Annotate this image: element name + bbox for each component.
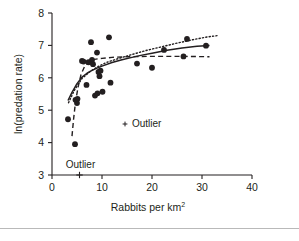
scatter-plot: 345678010203040OutlierOutlierRabbits per… (0, 0, 299, 241)
x-axis-title-text: Rabbits per km (111, 201, 182, 213)
x-tick-label: 30 (196, 181, 208, 193)
data-point (95, 90, 101, 96)
y-axis-title: ln(predation rate) (12, 54, 24, 134)
x-axis-title-superscript: 2 (181, 201, 185, 208)
x-tick-label: 40 (246, 181, 258, 193)
y-tick-label: 7 (38, 39, 44, 51)
x-axis-title: Rabbits per km2 (111, 201, 186, 213)
legend-outlier-marker (123, 122, 128, 127)
data-point (98, 68, 104, 74)
outlier-cross-marker (76, 172, 82, 178)
figure-container: 345678010203040OutlierOutlierRabbits per… (0, 0, 299, 241)
x-tick-label: 10 (96, 181, 108, 193)
data-point (203, 43, 209, 49)
footer-divider (0, 228, 299, 229)
data-point (97, 73, 103, 79)
y-tick-label: 8 (38, 7, 44, 19)
data-point (84, 82, 90, 88)
data-point (88, 39, 94, 45)
data-point (184, 36, 190, 42)
data-point (181, 54, 187, 60)
data-point (149, 65, 155, 71)
data-point (106, 34, 112, 40)
data-point (134, 61, 140, 67)
y-tick-label: 4 (38, 136, 44, 148)
x-tick-label: 0 (49, 181, 55, 193)
legend-outlier-label: Outlier (132, 118, 162, 129)
y-tick-label: 3 (38, 169, 44, 181)
data-point (161, 47, 167, 53)
axes (48, 13, 252, 179)
data-point (81, 59, 87, 65)
fit-curve-solid (68, 45, 210, 100)
data-point (72, 141, 78, 147)
fit-curve-dotted (69, 36, 218, 103)
data-point (94, 50, 100, 56)
axis-outlier-label: Outlier (66, 159, 96, 170)
x-tick-label: 20 (146, 181, 158, 193)
data-point (75, 96, 81, 102)
data-point (90, 61, 96, 67)
data-point (65, 116, 71, 122)
y-tick-label: 6 (38, 72, 44, 84)
data-point (100, 89, 106, 95)
y-tick-label: 5 (38, 104, 44, 116)
data-point (108, 80, 114, 86)
